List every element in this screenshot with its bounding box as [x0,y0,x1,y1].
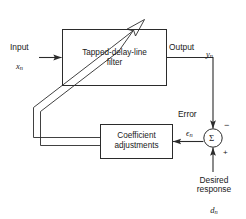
output-label-text: Output [169,42,194,52]
error-signal-subscript: n [189,131,192,138]
output-label: Output [169,43,194,52]
adaptive-filter-diagram: Tapped-delay-line filter Coefficient adj… [0,0,246,219]
error-signal-label: ϵn [186,122,193,140]
output-signal-subscript: n [210,52,213,59]
coefficient-bus-arrowhead [112,20,145,52]
coefficient-block-label: Coefficient adjustments [100,131,173,152]
minus-sign: − [224,121,229,130]
error-label: Error [178,110,197,119]
input-signal-label: xn [16,55,23,73]
filter-label-line1: Tapped-delay-line [82,48,147,57]
input-signal-subscript: n [20,64,23,71]
desired-response-line2: response [197,184,231,194]
desired-response-label: Desired response [188,176,240,195]
plus-sign: + [223,149,228,157]
coefficient-label-line2: adjustments [114,141,158,150]
desired-signal-label: dn [188,199,240,217]
input-label-text: Input [10,42,29,52]
error-label-text: Error [178,109,197,119]
sigma-symbol: Σ [209,133,214,143]
filter-label-line2: filter [107,58,122,67]
desired-signal-subscript: n [215,208,218,215]
input-label: Input [10,43,29,52]
coefficient-label-line1: Coefficient [117,131,156,140]
filter-block-label: Tapped-delay-line filter [62,48,167,69]
output-signal-label: yn [206,43,213,61]
